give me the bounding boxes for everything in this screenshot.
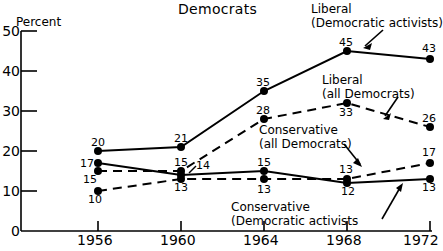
annotation-cons-all-line2: (all Democrats)	[259, 138, 352, 152]
point-label-cons-all-1960: 13	[174, 182, 188, 193]
point-label-cons-activists-1956: 17	[80, 158, 94, 169]
x-tick-1960: 1960	[160, 233, 196, 247]
point-label-cons-activists-1964: 15	[257, 157, 271, 168]
point-label-cons-all-1964: 13	[257, 184, 271, 195]
annotation-cons-all-line1: Conservative	[259, 124, 352, 138]
chart-title: Democrats	[178, 2, 257, 16]
y-tick-40: 40	[0, 64, 20, 78]
point-label-liberal-activists-1964: 35	[256, 77, 270, 88]
y-axis-label: Percent	[16, 16, 61, 28]
point-label-liberal-activists-1972: 43	[422, 43, 436, 54]
point-label-liberal-activists-1960: 21	[174, 133, 188, 144]
annotation-liberal-all-line1: Liberal	[322, 74, 415, 88]
annotation-cons-activists-line2: (Democratic activists	[231, 215, 358, 229]
point-label-cons-activists-1972: 13	[422, 182, 436, 193]
y-tick-0: 0	[0, 224, 20, 238]
y-tick-30: 30	[0, 104, 20, 118]
annotation-liberal-all-democrats: Liberal (all Democrats)	[322, 74, 415, 102]
point-label-cons-all-1972: 17	[422, 147, 436, 158]
point-label-liberal-all-1968: 33	[339, 107, 353, 118]
x-tick-1964: 1964	[243, 233, 279, 247]
axes	[21, 31, 432, 231]
annotation-conservative-activists: Conservative (Democratic activists	[231, 201, 358, 229]
x-tick-1972: 1972	[403, 233, 439, 247]
point-label-liberal-all-1960: 15	[174, 157, 188, 168]
x-tick-1956: 1956	[77, 233, 113, 247]
point-label-cons-all-1956: 10	[88, 194, 102, 205]
annotation-liberal-activists: Liberal (Democratic activists)	[311, 3, 443, 31]
annotation-liberal-activists-line1: Liberal	[311, 3, 443, 17]
x-tick-1968: 1968	[326, 233, 362, 247]
point-label-liberal-all-1964: 28	[256, 105, 270, 116]
annotation-conservative-all-democrats: Conservative (all Democrats)	[259, 124, 352, 152]
annotation-cons-activists-line1: Conservative	[231, 201, 358, 215]
point-label-cons-activists-1960: 14	[196, 160, 210, 171]
point-label-liberal-activists-1968: 45	[339, 37, 353, 48]
y-tick-50: 50	[0, 24, 20, 38]
point-label-cons-activists-1968: 12	[341, 186, 355, 197]
point-label-liberal-activists-1956: 20	[91, 137, 105, 148]
point-label-liberal-all-1972: 26	[422, 113, 436, 124]
annotation-liberal-activists-line2: (Democratic activists)	[311, 17, 443, 31]
point-label-cons-all-1968: 13	[339, 164, 353, 175]
y-tick-20: 20	[0, 144, 20, 158]
point-label-liberal-all-1956: 15	[83, 174, 97, 185]
annotation-liberal-all-line2: (all Democrats)	[322, 88, 415, 102]
y-tick-10: 10	[0, 184, 20, 198]
